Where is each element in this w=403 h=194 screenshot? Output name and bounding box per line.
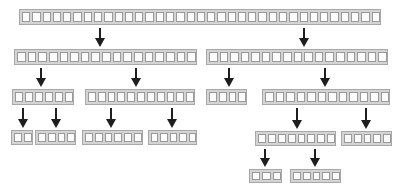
array-cell	[373, 134, 381, 143]
array-cell	[91, 52, 100, 62]
array-cell	[60, 52, 69, 62]
array-cell	[189, 133, 196, 142]
array-cell	[288, 134, 296, 143]
array-node-l4-a	[11, 130, 33, 145]
array-cell	[43, 12, 51, 22]
array-node-l5-b	[290, 169, 341, 183]
array-cell	[258, 134, 266, 143]
array-cell	[248, 12, 256, 22]
array-cell	[294, 52, 303, 62]
array-cell	[303, 172, 311, 180]
array-cell	[170, 133, 177, 142]
array-cell	[229, 92, 237, 102]
array-node-l2-a	[14, 49, 197, 65]
array-cell	[22, 12, 30, 22]
array-cell	[67, 133, 75, 142]
array-cell	[125, 12, 133, 22]
array-cell	[297, 92, 306, 102]
array-cell	[307, 92, 316, 102]
array-node-l4-c	[82, 130, 143, 145]
array-cell	[207, 12, 215, 22]
array-cell	[241, 52, 250, 62]
array-cell	[94, 12, 102, 22]
array-cell	[328, 92, 337, 102]
array-cell	[230, 52, 239, 62]
array-cell	[238, 12, 246, 22]
array-cell	[88, 92, 96, 102]
array-cell	[344, 134, 352, 143]
array-cell	[381, 92, 390, 102]
array-cell	[286, 92, 295, 102]
array-cell	[81, 52, 90, 62]
array-cell	[35, 92, 43, 102]
array-cell	[63, 12, 71, 22]
array-cell	[325, 52, 334, 62]
array-cell	[53, 12, 61, 22]
array-cell	[276, 92, 285, 102]
array-cell	[115, 12, 123, 22]
array-node-l2-b	[206, 49, 388, 65]
array-node-root	[19, 9, 381, 25]
array-cell	[186, 92, 194, 102]
array-cell	[179, 133, 186, 142]
array-cell	[135, 12, 143, 22]
array-cell	[48, 133, 56, 142]
array-node-l4-b	[35, 130, 76, 145]
array-cell	[166, 52, 175, 62]
array-cell	[167, 92, 175, 102]
array-cell	[58, 133, 66, 142]
array-cell	[351, 12, 359, 22]
array-cell	[258, 12, 266, 22]
array-cell	[293, 172, 301, 180]
array-cell	[84, 12, 92, 22]
array-cell	[298, 134, 306, 143]
array-cell	[378, 52, 387, 62]
array-cell	[98, 92, 106, 102]
array-node-l4-f	[341, 131, 392, 146]
array-cell	[137, 92, 145, 102]
array-cell	[32, 12, 40, 22]
array-cell	[134, 133, 142, 142]
array-cell	[347, 52, 356, 62]
array-cell	[45, 92, 53, 102]
array-cell	[176, 12, 184, 22]
array-cell	[105, 133, 113, 142]
array-cell	[95, 133, 103, 142]
array-cell	[327, 134, 335, 143]
array-cell	[361, 12, 369, 22]
array-cell	[262, 52, 271, 62]
array-cell	[272, 52, 281, 62]
array-cell	[113, 52, 122, 62]
array-cell	[187, 12, 195, 22]
array-cell	[73, 12, 81, 22]
array-cell	[70, 52, 79, 62]
array-cell	[370, 92, 379, 102]
array-cell	[304, 52, 313, 62]
array-cell	[278, 134, 286, 143]
array-cell	[273, 172, 281, 180]
array-cell	[55, 92, 63, 102]
array-cell	[339, 92, 348, 102]
array-cell	[372, 12, 380, 22]
array-cell	[357, 52, 366, 62]
array-cell	[317, 134, 325, 143]
array-cell	[124, 133, 132, 142]
array-cell	[38, 133, 46, 142]
array-cell	[279, 12, 287, 22]
array-cell	[134, 52, 143, 62]
array-cell	[268, 134, 276, 143]
array-cell	[320, 12, 328, 22]
array-cell	[197, 12, 205, 22]
array-cell	[238, 92, 246, 102]
array-node-l5-a	[249, 169, 282, 183]
array-cell	[156, 12, 164, 22]
array-cell	[65, 92, 73, 102]
array-cell	[114, 133, 122, 142]
array-cell	[330, 12, 338, 22]
array-cell	[28, 52, 37, 62]
array-cell	[14, 133, 22, 142]
array-cell	[332, 172, 340, 180]
array-node-l3-d	[262, 89, 390, 105]
array-cell	[127, 92, 135, 102]
array-cell	[15, 92, 23, 102]
